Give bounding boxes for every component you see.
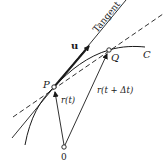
point-p — [52, 85, 56, 89]
p-label: P — [42, 79, 50, 90]
r-t-dt-label: r(t + Δt) — [97, 85, 133, 95]
curve-c — [25, 46, 145, 145]
point-o — [62, 145, 66, 149]
unit-tangent-vector-u — [54, 46, 89, 87]
q-label: Q — [111, 52, 119, 63]
tangent-label: Tangent — [91, 0, 122, 34]
secant-line — [13, 14, 163, 117]
c-label: C — [143, 49, 151, 60]
u-label: u — [71, 40, 78, 51]
o-label: 0 — [61, 152, 67, 162]
curve-tangent-diagram: Tangent u P Q C 0 r(t) r(t + Δt) — [0, 0, 163, 162]
r-t-label: r(t) — [61, 95, 75, 105]
